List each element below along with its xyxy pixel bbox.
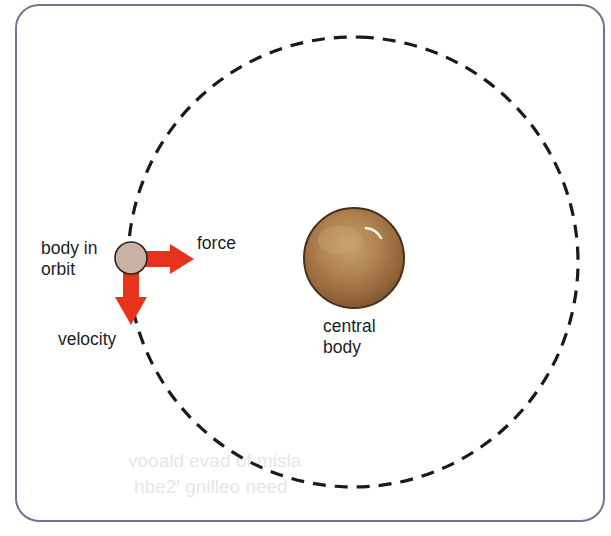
orbiting-body-label: body in orbit — [41, 238, 97, 280]
orbiting-body — [115, 242, 147, 274]
velocity-arrow — [115, 266, 147, 325]
central-body-label-line2: body — [323, 337, 376, 358]
force-arrow — [140, 244, 194, 274]
orbiting-body-label-line2: orbit — [41, 259, 97, 280]
force-label: force — [197, 233, 236, 254]
orbiting-body-label-line1: body in — [41, 238, 97, 259]
central-body-label-line1: central — [323, 316, 376, 337]
velocity-label: velocity — [58, 329, 116, 350]
central-body-label: central body — [323, 316, 376, 358]
central-body — [304, 208, 404, 308]
